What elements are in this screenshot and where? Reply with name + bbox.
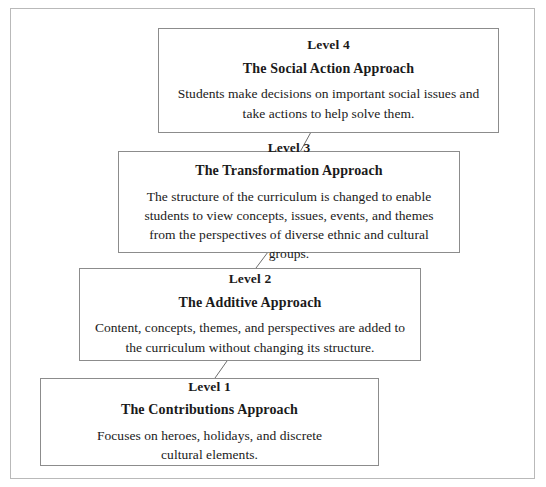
level-3-description: The structure of the curriculum is chang…	[133, 187, 445, 264]
level-box-4: Level 4 The Social Action Approach Stude…	[158, 28, 499, 133]
level-4-description: Students make decisions on important soc…	[173, 84, 484, 122]
level-2-subtitle: The Additive Approach	[179, 294, 322, 313]
level-4-subtitle: The Social Action Approach	[243, 60, 414, 79]
level-3-title: Level 3	[268, 139, 311, 157]
level-4-title: Level 4	[307, 36, 350, 54]
level-box-2: Level 2 The Additive Approach Content, c…	[79, 268, 421, 361]
level-box-1: Level 1 The Contributions Approach Focus…	[40, 378, 379, 466]
diagram-canvas: Level 4 The Social Action Approach Stude…	[0, 0, 546, 487]
level-2-description: Content, concepts, themes, and perspecti…	[94, 318, 406, 356]
level-1-subtitle: The Contributions Approach	[121, 401, 298, 420]
level-1-description: Focuses on heroes, holidays, and discret…	[90, 426, 330, 464]
level-2-title: Level 2	[229, 270, 272, 288]
level-box-3: Level 3 The Transformation Approach The …	[118, 151, 460, 253]
level-1-title: Level 1	[188, 378, 231, 396]
level-3-subtitle: The Transformation Approach	[195, 162, 383, 181]
